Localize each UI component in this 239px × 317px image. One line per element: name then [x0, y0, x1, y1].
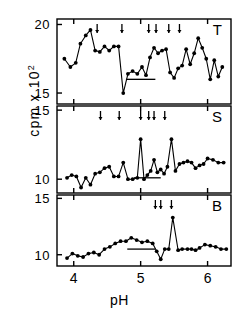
- data-point-S: [222, 161, 226, 165]
- panel-label-S: S: [212, 108, 222, 125]
- y-tick-label-T-20: 20: [35, 17, 50, 32]
- data-point-B: [70, 252, 74, 256]
- data-point-T: [168, 71, 172, 75]
- data-point-T: [140, 65, 144, 69]
- data-point-S: [135, 176, 139, 180]
- data-point-B: [65, 256, 69, 260]
- arrow-marker-S-1: [117, 111, 121, 120]
- data-point-B: [135, 238, 139, 242]
- data-point-B: [103, 247, 107, 251]
- data-point-T: [184, 47, 188, 51]
- data-point-S: [182, 161, 186, 165]
- data-point-S: [65, 176, 69, 180]
- data-point-S: [211, 158, 215, 162]
- data-point-S: [126, 177, 130, 181]
- data-point-B: [87, 252, 91, 256]
- data-point-T: [208, 77, 212, 81]
- data-point-T: [144, 73, 148, 77]
- data-point-T: [98, 50, 102, 54]
- data-point-T: [74, 61, 78, 65]
- data-point-T: [196, 36, 200, 40]
- data-point-S: [166, 165, 170, 169]
- data-point-B: [76, 254, 80, 258]
- data-point-S: [149, 169, 153, 173]
- data-point-S: [139, 137, 143, 141]
- data-point-B: [194, 248, 198, 252]
- panel-frame-T: [57, 19, 231, 104]
- data-point-T: [172, 76, 176, 80]
- data-point-S: [152, 158, 156, 162]
- data-point-T: [212, 58, 216, 62]
- y-tick-label-B-15: 15: [35, 191, 50, 206]
- data-point-S: [194, 166, 198, 170]
- arrow-marker-T-4: [167, 24, 171, 33]
- data-point-B: [113, 242, 117, 246]
- arrow-marker-B-0: [153, 200, 157, 209]
- figure-container: 1520T1015S1015B456 cpm x 102 pH: [0, 0, 239, 317]
- data-point-T: [160, 49, 164, 53]
- data-point-T: [126, 72, 130, 76]
- data-point-S: [131, 177, 135, 181]
- data-point-S: [93, 172, 97, 176]
- data-point-B: [119, 239, 123, 243]
- data-point-B: [92, 251, 96, 255]
- data-point-S: [117, 175, 121, 179]
- data-point-S: [145, 173, 149, 177]
- data-point-S: [190, 161, 194, 165]
- y-axis-label-exponent: 2: [26, 64, 36, 70]
- data-point-S: [107, 165, 111, 169]
- data-point-B: [219, 247, 223, 251]
- x-tick-label-4: 4: [70, 270, 78, 286]
- data-point-S: [216, 161, 220, 165]
- data-point-S: [70, 173, 74, 177]
- data-point-B: [180, 247, 184, 251]
- data-point-B: [145, 239, 149, 243]
- panel-label-B: B: [212, 197, 222, 214]
- data-point-B: [203, 243, 207, 247]
- data-point-S: [121, 161, 125, 165]
- data-point-B: [171, 216, 175, 220]
- data-point-T: [131, 69, 135, 73]
- data-line-B: [67, 218, 226, 260]
- data-point-S: [178, 162, 182, 166]
- data-point-T: [156, 51, 160, 55]
- data-point-T: [220, 65, 224, 69]
- data-point-B: [214, 245, 218, 249]
- data-point-B: [167, 247, 171, 251]
- data-point-T: [62, 57, 66, 61]
- data-point-T: [117, 45, 121, 49]
- data-point-T: [68, 65, 72, 69]
- data-point-S: [79, 186, 83, 190]
- data-point-T: [200, 46, 204, 50]
- data-point-S: [103, 166, 107, 170]
- data-point-S: [162, 172, 166, 176]
- data-point-T: [192, 51, 196, 55]
- arrow-marker-S-5: [163, 111, 167, 120]
- arrow-marker-S-3: [147, 111, 151, 120]
- data-point-T: [79, 42, 83, 46]
- data-point-B: [155, 249, 159, 253]
- data-point-T: [93, 49, 97, 53]
- data-point-T: [180, 64, 184, 68]
- x-tick-label-6: 6: [204, 270, 212, 286]
- data-point-B: [186, 247, 190, 251]
- data-point-S: [159, 168, 163, 172]
- data-point-S: [170, 137, 174, 141]
- data-point-B: [224, 247, 228, 251]
- data-point-B: [81, 255, 85, 259]
- arrow-marker-T-5: [177, 24, 181, 33]
- data-point-T: [89, 28, 93, 32]
- data-point-B: [129, 236, 133, 240]
- data-point-S: [142, 177, 146, 181]
- y-axis-label-text: cpm x 10: [26, 70, 42, 136]
- data-point-S: [186, 159, 190, 163]
- data-point-S: [75, 175, 79, 179]
- data-point-S: [174, 169, 178, 173]
- data-point-B: [163, 247, 167, 251]
- data-point-S: [202, 162, 206, 166]
- panel-label-T: T: [213, 21, 222, 38]
- x-tick-label-5: 5: [137, 270, 145, 286]
- y-axis-label: cpm x 102: [26, 40, 43, 160]
- arrow-marker-S-0: [99, 111, 103, 120]
- data-point-T: [103, 45, 107, 49]
